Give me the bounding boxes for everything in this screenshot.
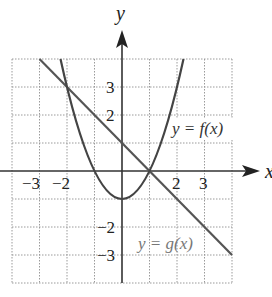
x-tick-label: 2 — [172, 174, 181, 193]
f-function-label: y = f(x) — [170, 119, 223, 138]
y-tick-label: 2 — [106, 106, 115, 125]
x-tick-label: −2 — [52, 174, 70, 193]
y-tick-label: −3 — [97, 246, 115, 265]
g-function-label: y = g(x) — [136, 234, 193, 253]
y-axis — [116, 30, 128, 283]
y-axis-label: y — [114, 2, 125, 25]
x-tick-label: −3 — [22, 174, 40, 193]
y-tick-label: 3 — [106, 78, 115, 97]
x-tick-labels: −3 −2 2 3 — [22, 174, 208, 193]
x-tick-label: 3 — [199, 174, 208, 193]
y-tick-label: −2 — [97, 218, 115, 237]
x-axis-label: x — [264, 160, 272, 182]
graph-figure: x y −3 −2 2 3 3 2 −2 −3 y = f(x) y = g(x… — [0, 0, 272, 297]
